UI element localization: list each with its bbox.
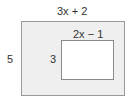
outer-height-label: 5 — [7, 53, 13, 65]
outer-width-label: 3x + 2 — [57, 5, 87, 17]
inner-height-label: 3 — [50, 53, 56, 65]
inner-rectangle — [61, 40, 114, 80]
inner-width-label: 2x − 1 — [73, 28, 103, 40]
